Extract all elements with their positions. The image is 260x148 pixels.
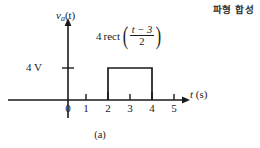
formula-close-paren: ) bbox=[156, 25, 161, 46]
x-axis-label: t (s) bbox=[190, 89, 207, 100]
figure-panel: 파형 합성 va(t) t (s) 4 V 4 rect ( t − 3 bbox=[0, 0, 260, 148]
figure-caption: (a) bbox=[0, 130, 200, 141]
x-tick-label-4: 4 bbox=[146, 103, 158, 114]
x-axis-arrowhead bbox=[182, 97, 190, 104]
x-axis-label-unit: (s) bbox=[196, 88, 208, 100]
formula-function: rect bbox=[104, 30, 120, 42]
x-tick-label-3: 3 bbox=[124, 103, 136, 114]
formula-denominator: 2 bbox=[137, 36, 146, 47]
y-axis-label: va(t) bbox=[56, 10, 75, 23]
x-tick-label-5: 5 bbox=[168, 103, 180, 114]
waveform-plot bbox=[0, 0, 260, 148]
x-axis-label-var: t bbox=[190, 88, 193, 100]
formula-open-paren: ( bbox=[123, 25, 128, 46]
y-axis-label-arg: (t) bbox=[65, 9, 75, 21]
x-tick-label-0: 0 bbox=[62, 103, 74, 114]
amplitude-label: 4 V bbox=[26, 62, 42, 73]
formula-coefficient: 4 bbox=[96, 30, 102, 42]
formula-fraction: t − 3 2 bbox=[130, 24, 155, 47]
x-tick-label-2: 2 bbox=[102, 103, 114, 114]
waveform-formula: 4 rect ( t − 3 2 ) bbox=[96, 24, 163, 47]
x-tick-label-1: 1 bbox=[80, 103, 92, 114]
formula-numerator: t − 3 bbox=[130, 24, 155, 35]
